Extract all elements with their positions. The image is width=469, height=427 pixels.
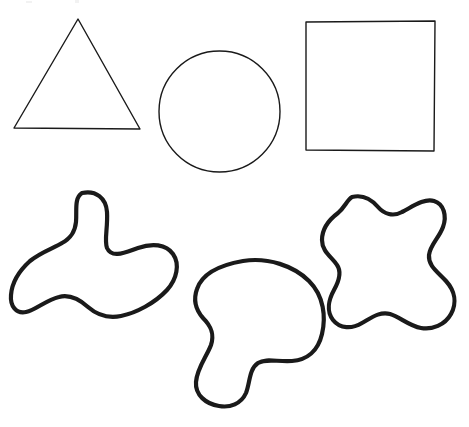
four-lobed-blob-shape [322, 196, 454, 328]
square-shape [306, 21, 435, 151]
circle-shape [159, 51, 280, 172]
figure-canvas: Six outlined shapes: a triangle, a circl… [0, 0, 469, 427]
three-lobed-blob-shape [11, 192, 177, 317]
shapes-drawing [0, 0, 469, 427]
bean-shaped-blob-shape [195, 260, 324, 406]
triangle-shape [14, 19, 140, 129]
